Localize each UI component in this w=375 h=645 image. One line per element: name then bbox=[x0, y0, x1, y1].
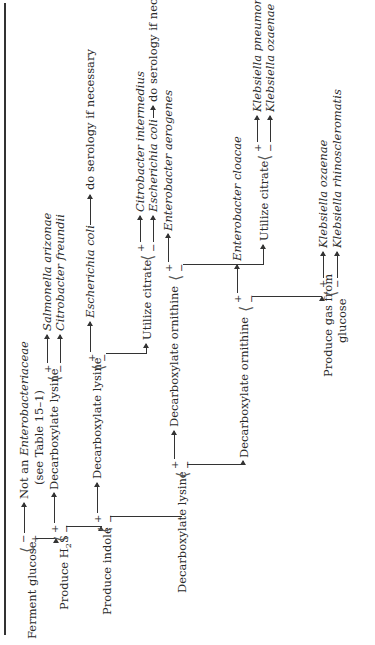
bracket: ⟨ bbox=[238, 306, 254, 312]
bracket: ⟨ bbox=[257, 155, 273, 161]
arrow bbox=[153, 106, 154, 118]
arrow bbox=[60, 335, 61, 363]
bracket: ⟨ bbox=[19, 547, 35, 553]
note-serology-2: do serology if necessary bbox=[147, 0, 160, 102]
bracket: ⟨ bbox=[91, 365, 107, 371]
minus-sign: − bbox=[149, 244, 159, 252]
arrow bbox=[323, 252, 324, 278]
result-citrobacter-freundii: Citrobacter freundii bbox=[54, 214, 67, 331]
arrow bbox=[97, 483, 98, 513]
arrow bbox=[168, 234, 169, 262]
minus-sign: − bbox=[266, 144, 276, 152]
arrow bbox=[337, 252, 338, 278]
node-decarboxylate-ornithine-1: Decarboxylate ornithine bbox=[168, 286, 181, 427]
node-decarboxylate-ornithine-2: Decarboxylate ornithine bbox=[238, 317, 251, 458]
connector bbox=[252, 296, 322, 297]
plus-sign: + bbox=[318, 280, 328, 288]
node-utilize-citrate-2: Utilize citrate bbox=[258, 161, 271, 241]
arrow bbox=[47, 335, 48, 363]
bracket: ⟨ bbox=[53, 536, 69, 542]
minus-sign: − bbox=[100, 354, 110, 362]
arrow bbox=[153, 216, 154, 242]
arrow bbox=[237, 265, 238, 293]
result-klebsiella-ozaenae-2: Klebsiella ozaenae bbox=[317, 140, 330, 248]
node-produce-indole: Produce indole bbox=[101, 527, 114, 615]
node-decarboxylate-lysine-3: Decarboxylate lysine bbox=[176, 471, 189, 593]
result-klebsiella-rhinoscleromatis: Klebsiella rhinoscleromatis bbox=[331, 89, 344, 248]
result-not-enterobacteriaceae: Not an Enterobacteriaceae bbox=[18, 341, 31, 499]
arrow bbox=[90, 322, 91, 352]
bracket: ⟨ bbox=[175, 472, 191, 478]
node-produce-h2s: Produce H2S bbox=[58, 535, 75, 610]
node-ferment-glucose: Ferment glucose bbox=[26, 541, 39, 639]
result-escherichia-coli: Escherichia coli bbox=[84, 225, 97, 318]
see-table-note: (see Table 15–1) bbox=[33, 390, 46, 485]
arrow bbox=[257, 116, 258, 142]
result-klebsiella-ozaenae: Klebsiella ozaenae bbox=[264, 4, 277, 112]
plus-sign: + bbox=[87, 354, 97, 362]
result-enterobacter-cloacae: Enterobacter cloacae bbox=[231, 136, 244, 261]
arrow bbox=[24, 503, 25, 533]
node-produce-gas-line2: glucose bbox=[336, 298, 349, 343]
arrow bbox=[174, 431, 175, 459]
arrow bbox=[140, 216, 141, 242]
plus-sign: + bbox=[43, 365, 53, 373]
arrow bbox=[243, 461, 244, 465]
node-utilize-citrate-1: Utilize citrate bbox=[141, 260, 154, 340]
result-enterobacter-aerogenes: Enterobacter aerogenes bbox=[162, 90, 175, 231]
minus-sign: − bbox=[19, 535, 29, 543]
arrow bbox=[270, 116, 271, 142]
plus-sign: + bbox=[253, 144, 263, 152]
plus-sign: + bbox=[233, 295, 243, 303]
connector bbox=[183, 264, 263, 265]
arrow bbox=[90, 195, 91, 225]
connector bbox=[106, 353, 146, 354]
top-rule bbox=[4, 3, 6, 635]
arrow bbox=[146, 344, 147, 354]
bracket: ⟨ bbox=[140, 255, 156, 261]
node-decarboxylate-lysine-2: Decarboxylate lysine bbox=[91, 357, 104, 479]
plus-sign: + bbox=[170, 461, 180, 469]
connector bbox=[187, 464, 243, 465]
bracket: ⟨ bbox=[168, 275, 184, 281]
bracket: ⟨ bbox=[323, 291, 339, 297]
node-decarboxylate-lysine-1: Decarboxylate lysine bbox=[48, 368, 61, 490]
arrow bbox=[263, 245, 264, 265]
minus-sign: − bbox=[333, 280, 343, 288]
bracket: ⟨ bbox=[97, 527, 113, 533]
note-serology: do serology if necessary bbox=[84, 49, 97, 190]
plus-sign: + bbox=[136, 244, 146, 252]
bracket: ⟨ bbox=[47, 376, 63, 382]
connector bbox=[110, 516, 182, 517]
flowchart-page: Ferment glucose ⟨ − + Not an Enterobacte… bbox=[0, 0, 375, 645]
plus-sign: + bbox=[50, 525, 60, 533]
minus-sign: − bbox=[56, 365, 66, 373]
plus-sign: + bbox=[164, 264, 174, 272]
arrow bbox=[54, 493, 55, 523]
node-produce-gas: Produce gas from bbox=[322, 274, 335, 377]
result-escherichia-coli-2: Escherichia coli bbox=[147, 119, 160, 212]
plus-sign: + bbox=[93, 515, 103, 523]
